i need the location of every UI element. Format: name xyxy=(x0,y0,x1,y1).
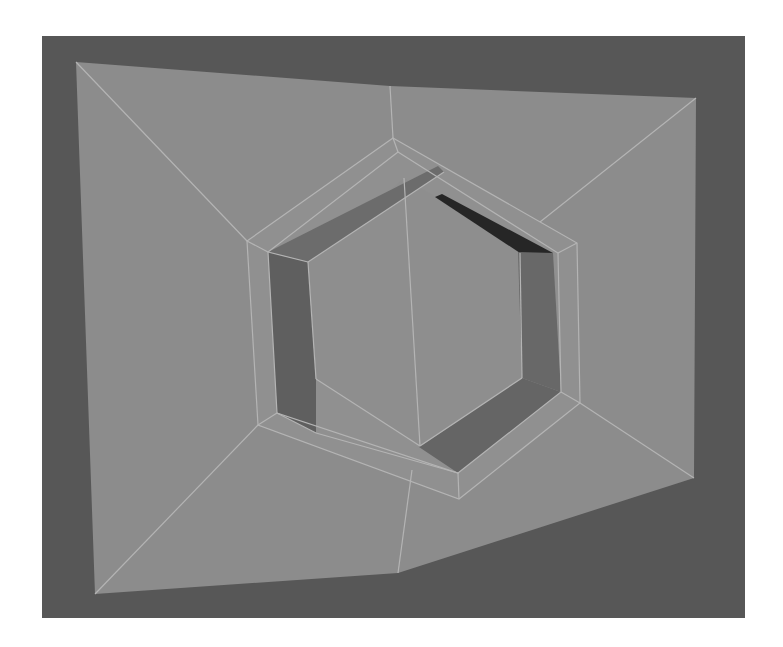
mesh-viewport xyxy=(0,0,783,647)
